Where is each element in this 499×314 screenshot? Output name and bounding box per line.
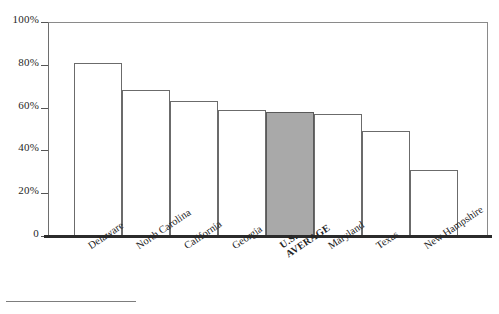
y-axis-tick-mark: [41, 193, 48, 194]
bars-layer: [48, 22, 488, 236]
footnote-separator-rule: [6, 301, 136, 302]
y-axis-tick-mark: [41, 22, 48, 23]
y-axis-tick-mark: [41, 108, 48, 109]
bar-us-average: [266, 112, 314, 236]
y-axis-tick-label: 60%: [18, 99, 39, 111]
bar: [74, 63, 122, 236]
y-axis-tick-label: 40%: [18, 141, 39, 153]
bar-chart-figure: 100%80%60%40%20%0 DelawareNorth Carolina…: [0, 0, 499, 314]
y-axis-tick-mark: [41, 65, 48, 66]
y-axis-tick-label: 100%: [13, 13, 39, 25]
y-axis-tick-mark: [41, 150, 48, 151]
bar: [122, 90, 170, 236]
y-axis: 100%80%60%40%20%0: [0, 0, 48, 260]
x-axis-labels: DelawareNorth CarolinaCaliforniaGeorgiaU…: [48, 238, 488, 314]
bar: [218, 110, 266, 236]
bar: [362, 131, 410, 236]
y-axis-tick-label: 80%: [18, 56, 39, 68]
y-axis-tick-label: 0: [33, 227, 39, 239]
y-axis-tick-label: 20%: [18, 184, 39, 196]
